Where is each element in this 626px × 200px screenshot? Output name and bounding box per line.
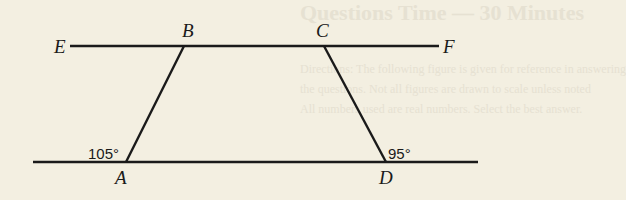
angle-label-d: 95° (388, 145, 411, 162)
segment-ab (126, 46, 184, 162)
segment-cd (324, 46, 386, 162)
angle-label-a: 105° (88, 145, 119, 162)
point-label-b: B (182, 20, 194, 41)
point-label-d: D (378, 167, 393, 188)
point-label-c: C (316, 20, 329, 41)
point-label-e: E (53, 36, 66, 57)
point-label-a: A (113, 167, 127, 188)
point-label-f: F (442, 36, 455, 57)
